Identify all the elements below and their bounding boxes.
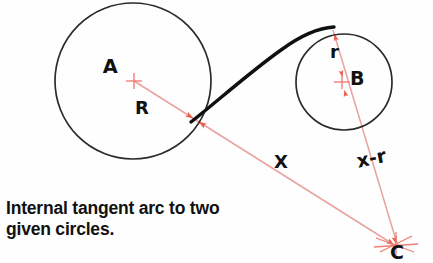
arrow-to-center-b-up [344, 90, 351, 116]
label-radius-b: r [330, 43, 339, 61]
label-distance-x: X [274, 153, 288, 171]
label-arc-center-c: C [390, 243, 404, 262]
internal-tangent-arc [191, 27, 334, 122]
center-mark-a [126, 73, 142, 89]
figure-caption: Internal tangent arc to two given circle… [6, 198, 266, 240]
label-center-a: A [103, 57, 118, 76]
label-radius-a: R [135, 99, 149, 117]
label-center-b: B [350, 69, 364, 88]
